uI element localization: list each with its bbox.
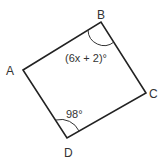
- vertex-label-b: B: [97, 8, 105, 22]
- angle-label-d: 98°: [66, 108, 83, 120]
- angle-label-b: (6x + 2)°: [65, 52, 107, 64]
- vertex-label-c: C: [149, 87, 158, 101]
- quadrilateral-abcd: [23, 22, 146, 138]
- quadrilateral-diagram: B A C D (6x + 2)° 98°: [0, 0, 167, 167]
- vertex-label-d: D: [64, 146, 73, 160]
- vertex-label-a: A: [6, 64, 14, 78]
